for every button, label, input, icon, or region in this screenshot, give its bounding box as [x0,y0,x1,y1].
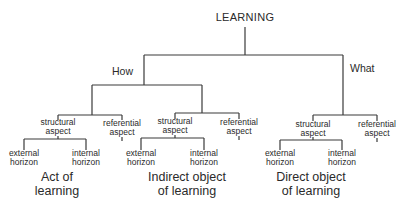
external-horizon-act: external horizon [4,149,44,167]
external-horizon-direct: external horizon [260,149,300,167]
label-line: horizon [66,158,106,167]
label-line: aspect [33,127,83,136]
structural-aspect-indirect: structural aspect [150,117,200,135]
label-line: of learning [266,184,356,198]
group-title-direct-object: Direct object of learning [266,170,356,199]
label-line: of learning [142,184,232,198]
label-line: Direct object [266,170,356,184]
label-line: aspect [288,129,338,138]
internal-horizon-direct: internal horizon [322,149,362,167]
label-line: horizon [184,158,224,167]
root-node-learning: LEARNING [215,12,275,24]
group-title-indirect-object: Indirect object of learning [142,170,232,199]
external-horizon-indirect: external horizon [121,149,161,167]
label-line: Act of [27,170,87,184]
internal-horizon-act: internal horizon [66,149,106,167]
referential-aspect-direct: referential aspect [352,120,402,138]
label-line: aspect [150,126,200,135]
group-title-act-of-learning: Act of learning [27,170,87,199]
internal-horizon-indirect: internal horizon [184,149,224,167]
referential-aspect-indirect: referential aspect [214,118,264,136]
branch-label-how: How [112,66,133,77]
label-line: learning [27,184,87,198]
label-line: aspect [97,128,147,137]
label-line: aspect [214,127,264,136]
label-line: Indirect object [142,170,232,184]
branch-label-what: What [350,63,375,74]
label-line: horizon [322,158,362,167]
label-line: horizon [121,158,161,167]
structural-aspect-act: structural aspect [33,118,83,136]
structural-aspect-direct: structural aspect [288,120,338,138]
label-line: aspect [352,129,402,138]
label-line: horizon [260,158,300,167]
referential-aspect-act: referential aspect [97,119,147,137]
label-line: horizon [4,158,44,167]
